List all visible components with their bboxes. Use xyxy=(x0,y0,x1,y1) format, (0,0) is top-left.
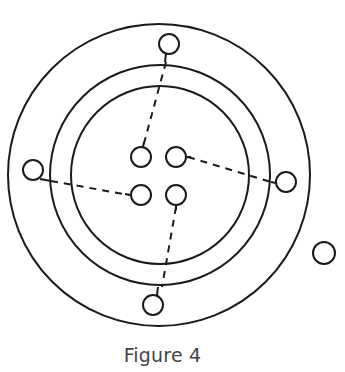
free-particle-group xyxy=(313,242,335,264)
link-right xyxy=(188,157,271,182)
nucleus-particle-top-right xyxy=(166,147,186,167)
shell-particles-group xyxy=(23,34,296,315)
shell-particle-top xyxy=(159,34,179,54)
link-bottom xyxy=(162,207,176,287)
stub-top xyxy=(165,54,166,62)
nucleus-particle-bottom-right xyxy=(166,185,186,205)
stub-bottom xyxy=(157,287,158,295)
atom-diagram xyxy=(0,0,345,372)
middle-ring xyxy=(50,65,270,285)
shell-particle-bottom xyxy=(143,295,163,315)
inner-ring xyxy=(71,86,249,264)
shell-particle-left xyxy=(23,160,43,180)
free-particle xyxy=(313,242,335,264)
nucleus-particle-top-left xyxy=(131,147,151,167)
nucleus-particle-bottom-left xyxy=(131,185,151,205)
link-top xyxy=(143,62,166,147)
nucleus-group xyxy=(131,147,186,205)
shell-particle-right xyxy=(276,172,296,192)
link-left xyxy=(51,181,129,195)
outer-ring xyxy=(8,24,310,326)
figure-caption: Figure 4 xyxy=(0,344,325,366)
rings-group xyxy=(8,24,310,326)
